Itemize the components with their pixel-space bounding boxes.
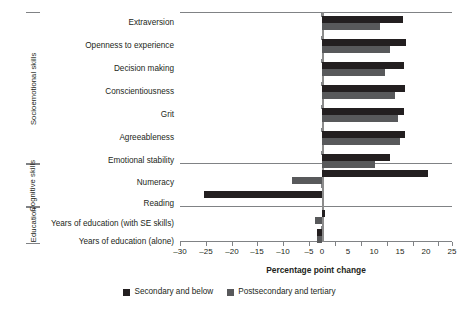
- bar-reading-secondary: [204, 191, 322, 198]
- x-axis-tick: [283, 242, 284, 246]
- category-label-grit: Grit: [161, 111, 174, 119]
- bar-emotional-stability-secondary: [322, 154, 390, 161]
- bar-agreeableness-postsecondary: [322, 138, 400, 145]
- category-label-reading: Reading: [144, 200, 175, 208]
- bar-emotional-stability-postsecondary: [322, 161, 375, 168]
- group-label-education: Education: [29, 208, 37, 243]
- bar-openness-postsecondary: [322, 46, 390, 53]
- legend-label: Postsecondary and tertiary: [238, 288, 335, 296]
- bar-conscientiousness-secondary: [322, 85, 405, 92]
- chart-container: Socioemotional skills Cognitive skills E…: [0, 0, 459, 313]
- x-axis-tick: [180, 242, 181, 246]
- legend-swatch-icon: [227, 289, 234, 296]
- bar-grit-secondary: [322, 108, 404, 115]
- group-band-cognitive: Cognitive skills: [26, 163, 40, 208]
- plot-top-border: [180, 12, 452, 13]
- row-tick: [321, 184, 322, 188]
- category-label-conscientiousness: Conscientiousness: [105, 88, 174, 96]
- legend-item-postsecondary-and-tertiary: Postsecondary and tertiary: [227, 288, 335, 296]
- category-label-openness: Openness to experience: [85, 42, 174, 50]
- bar-openness-secondary: [322, 39, 406, 46]
- category-label-decision-making: Decision making: [114, 65, 174, 73]
- plot-area: [180, 12, 452, 242]
- bar-years-edu-alone-postsecondary: [317, 236, 322, 243]
- bar-years-edu-se-postsecondary: [315, 217, 322, 224]
- x-axis-tick: [232, 242, 233, 246]
- bar-numeracy-postsecondary: [292, 177, 322, 184]
- bar-grit-postsecondary: [322, 115, 398, 122]
- category-label-numeracy: Numeracy: [137, 179, 174, 187]
- x-axis-tick: [438, 242, 439, 246]
- bar-extraversion-postsecondary: [322, 23, 380, 30]
- legend-item-secondary-and-below: Secondary and below: [123, 288, 213, 296]
- group-separator-cognitive: [180, 163, 452, 164]
- chart-legend: Secondary and below Postsecondary and te…: [0, 288, 459, 296]
- x-axis-tick: [361, 242, 362, 246]
- category-label-agreeableness: Agreeableness: [119, 134, 174, 142]
- bar-extraversion-secondary: [322, 16, 403, 23]
- bar-years-edu-alone-secondary: [317, 229, 322, 236]
- x-axis-title: Percentage point change: [180, 265, 452, 275]
- bar-decision-making-postsecondary: [322, 69, 385, 76]
- group-band-socioemotional: Socioemotional skills: [26, 12, 40, 165]
- category-label-extraversion: Extraversion: [128, 19, 174, 27]
- x-axis-tick: [206, 242, 207, 246]
- x-axis-tick: [335, 242, 336, 246]
- legend-swatch-icon: [123, 289, 130, 296]
- x-axis-label-25: 25: [437, 248, 459, 256]
- x-axis-tick: [413, 242, 414, 246]
- bar-years-edu-se-secondary: [322, 210, 325, 217]
- group-separator-education: [180, 206, 452, 207]
- legend-label: Secondary and below: [134, 288, 213, 296]
- bar-numeracy-secondary: [322, 170, 428, 177]
- category-label-years-edu-alone: Years of education (alone): [79, 238, 174, 246]
- x-axis-tick: [309, 242, 310, 246]
- group-band-education: Education: [26, 206, 40, 244]
- x-axis-tick: [452, 242, 453, 246]
- category-label-years-edu-se: Years of education (with SE skills): [51, 220, 174, 228]
- group-label-socioemotional: Socioemotional skills: [29, 52, 37, 125]
- group-label-cognitive: Cognitive skills: [29, 160, 37, 212]
- bar-conscientiousness-postsecondary: [322, 92, 395, 99]
- bar-decision-making-secondary: [322, 62, 404, 69]
- x-axis-tick: [387, 242, 388, 246]
- x-axis-tick: [257, 242, 258, 246]
- category-label-emotional-stability: Emotional stability: [108, 157, 174, 165]
- bar-agreeableness-secondary: [322, 131, 405, 138]
- plot-bottom-border: [180, 241, 452, 242]
